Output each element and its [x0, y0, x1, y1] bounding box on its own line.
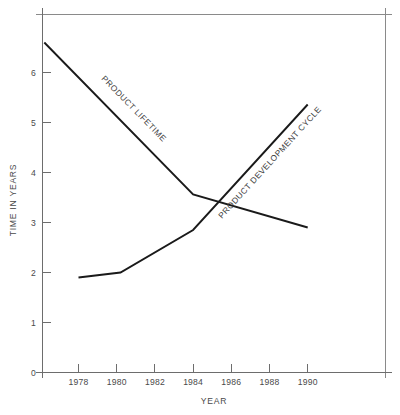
y-tick-label-0: 0: [31, 368, 36, 378]
y-tick-label-2: 2: [31, 268, 36, 278]
y-tick-label-3: 3: [31, 218, 36, 228]
y-axis-tick-labels: 0 1 2 3 4 5 6: [31, 68, 36, 378]
x-tick-label-1990: 1990: [298, 377, 318, 387]
x-tick-label-1986: 1986: [221, 377, 241, 387]
x-tick-label-1978: 1978: [69, 377, 89, 387]
y-axis-ticks: [43, 73, 52, 373]
y-tick-label-6: 6: [31, 68, 36, 78]
x-tick-label-1980: 1980: [107, 377, 127, 387]
series-line-product-lifetime: [44, 43, 307, 228]
x-axis-tick-labels: 1978 1980 1982 1984 1986 1988 1990: [69, 377, 318, 387]
chart-figure: 0 1 2 3 4 5 6 1978 1980 1982 1984 1986 1…: [0, 0, 400, 415]
series-line-product-development-cycle: [79, 105, 308, 278]
y-axis-title: TIME IN YEARS: [8, 164, 18, 237]
series-label-product-development-cycle: PRODUCT DEVELOPMENT CYCLE: [216, 104, 323, 220]
x-axis-title: YEAR: [201, 396, 227, 406]
line-chart: 0 1 2 3 4 5 6 1978 1980 1982 1984 1986 1…: [0, 0, 400, 415]
x-axis-ticks: [79, 364, 308, 373]
y-tick-label-1: 1: [31, 318, 36, 328]
x-tick-label-1982: 1982: [145, 377, 165, 387]
y-tick-label-5: 5: [31, 118, 36, 128]
x-tick-label-1984: 1984: [183, 377, 203, 387]
x-tick-label-1988: 1988: [260, 377, 280, 387]
y-tick-label-4: 4: [31, 168, 36, 178]
